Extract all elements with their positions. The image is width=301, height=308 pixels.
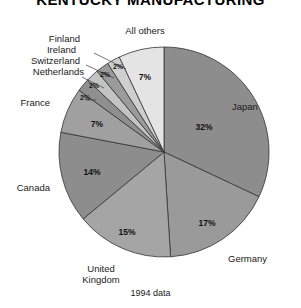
slice-percent-canada: 14% xyxy=(83,167,100,177)
slice-label-all-others: All others xyxy=(95,25,195,36)
pie-chart-figure: KENTUCKY MANUFACTURING Japan Germany Uni… xyxy=(0,0,301,308)
slice-percent-germany: 17% xyxy=(198,218,215,228)
slice-percent-united-kingdom: 15% xyxy=(118,227,135,237)
slice-label-netherlands: Netherlands xyxy=(0,66,84,77)
slice-label-germany: Germany xyxy=(228,253,267,264)
slice-label-united-kingdom-line1: United xyxy=(66,263,136,274)
slice-percent-switzerland: 2% xyxy=(89,82,99,89)
slice-label-switzerland: Switzerland xyxy=(0,55,80,66)
slice-percent-finland: 2% xyxy=(113,63,123,70)
slice-percent-netherlands: 2% xyxy=(80,94,90,101)
slice-label-france: France xyxy=(0,97,50,108)
slice-label-finland: Finland xyxy=(0,33,80,44)
chart-footnote: 1994 data xyxy=(0,288,301,298)
slice-label-united-kingdom-line2: Kingdom xyxy=(66,274,136,285)
slice-percent-france: 7% xyxy=(91,119,103,129)
slice-percent-japan: 32% xyxy=(195,122,212,132)
pie-slices-group xyxy=(59,47,269,257)
slice-label-ireland: Ireland xyxy=(0,44,76,55)
slice-percent-all-others: 7% xyxy=(139,72,151,82)
slice-label-canada: Canada xyxy=(0,182,50,193)
slice-percent-ireland: 2% xyxy=(100,71,110,78)
slice-label-japan: Japan xyxy=(232,101,258,112)
